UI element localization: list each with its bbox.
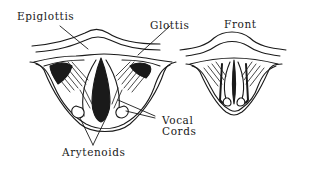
glottis-label: Glottis (150, 20, 189, 31)
vocal-cords-label-line2: Cords (162, 126, 197, 137)
epiglottis-label: Epiglottis (17, 11, 74, 22)
arytenoids-label: Arytenoids (62, 147, 126, 158)
front-label: Front (224, 19, 257, 30)
larynx-diagram: Epiglottis Glottis Front Vocal Cords Ary… (0, 0, 324, 170)
